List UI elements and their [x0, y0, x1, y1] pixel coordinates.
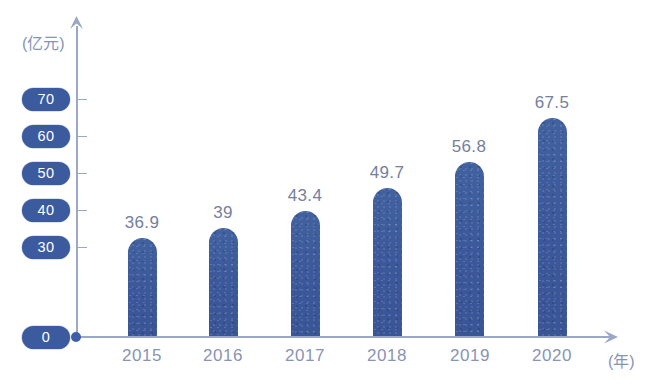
bar-2016: [209, 228, 238, 336]
x-category-label-2019: 2019: [430, 346, 510, 366]
y-tick-label-70: 70: [22, 88, 70, 111]
origin-dot: [71, 332, 81, 342]
y-tick-label-30: 30: [22, 236, 70, 259]
bar-value-2018: 49.7: [352, 163, 422, 183]
bar-value-2020: 67.5: [517, 93, 587, 113]
x-category-label-2016: 2016: [183, 346, 263, 366]
bar-2017: [291, 211, 320, 336]
bar-value-2015: 36.9: [107, 213, 177, 233]
bar-value-2019: 56.8: [434, 137, 504, 157]
y-tick-label-60: 60: [22, 125, 70, 148]
y-tick-label-0: 0: [22, 326, 70, 349]
bar-2020: [538, 118, 567, 336]
y-tick-mark: [78, 136, 87, 137]
bar-chart: (亿元) (年) 70 60 50 40 30 0 36.9 39 43.4 4…: [0, 0, 663, 392]
y-axis-arrow-icon: [69, 16, 84, 30]
y-tick-label-50: 50: [22, 162, 70, 185]
bar-2015: [128, 238, 157, 336]
bar-2018: [373, 188, 402, 336]
y-tick-label-40: 40: [22, 199, 70, 222]
y-axis-unit-label: (亿元): [22, 30, 65, 54]
bar-2019: [455, 162, 484, 336]
bar-value-2016: 39: [188, 203, 258, 223]
x-axis-unit-label: (年): [608, 348, 635, 372]
y-tick-mark: [78, 210, 87, 211]
y-tick-mark: [78, 173, 87, 174]
y-tick-mark: [78, 99, 87, 100]
x-axis-arrow-icon: [603, 330, 618, 344]
x-category-label-2017: 2017: [265, 346, 345, 366]
x-axis-line: [76, 336, 611, 338]
x-category-label-2018: 2018: [347, 346, 427, 366]
x-category-label-2015: 2015: [102, 346, 182, 366]
y-tick-mark: [78, 247, 87, 248]
bar-value-2017: 43.4: [270, 186, 340, 206]
y-axis-line: [76, 26, 78, 337]
x-category-label-2020: 2020: [512, 346, 592, 366]
